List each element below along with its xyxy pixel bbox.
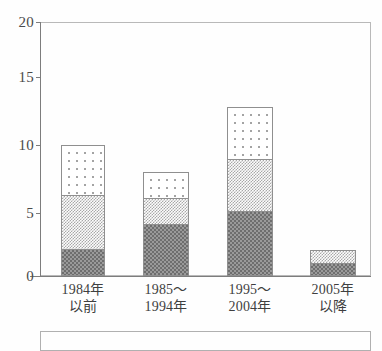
bar-4-segment-dark [310, 263, 356, 276]
y-tickmark-0 [36, 276, 41, 277]
bar-1984-or-earlier [61, 145, 105, 276]
x-label-2005-or-later: 2005年 以降 [293, 281, 373, 315]
x-axis-line [30, 276, 371, 277]
bar-2005-or-later [310, 250, 356, 276]
x-label-1984-or-earlier: 1984年 以前 [43, 281, 123, 315]
bar-3-segment-fine [227, 159, 273, 211]
bar-1-segment-dots [61, 145, 105, 195]
x-label-1995-2004: 1995〜 2004年 [210, 281, 290, 315]
x-label-2-line2: 1994年 [126, 298, 206, 315]
x-label-2-line1: 1985〜 [145, 282, 188, 297]
bar-2-segment-fine [143, 198, 189, 224]
bar-1-segment-dark [61, 249, 105, 276]
legend-box-cropped [40, 331, 371, 351]
x-label-3-line2: 2004年 [210, 298, 290, 315]
bar-2-segment-dark [143, 224, 189, 276]
bar-1985-1994 [143, 172, 189, 276]
bar-4-segment-fine [310, 250, 356, 263]
x-label-3-line1: 1995〜 [229, 282, 272, 297]
bar-1995-2004 [227, 107, 273, 276]
bar-3-segment-dark [227, 211, 273, 276]
bars-layer [0, 0, 382, 276]
x-label-4-line2: 以降 [293, 298, 373, 315]
bar-2-segment-dots [143, 172, 189, 198]
x-axis-labels: 1984年 以前 1985〜 1994年 1995〜 2004年 2005年 以… [0, 281, 382, 331]
x-label-1-line2: 以前 [43, 298, 123, 315]
bar-3-segment-dots [227, 107, 273, 159]
x-label-1-line1: 1984年 [62, 282, 105, 297]
x-label-4-line1: 2005年 [312, 282, 355, 297]
x-label-1985-1994: 1985〜 1994年 [126, 281, 206, 315]
bar-1-segment-fine [61, 195, 105, 249]
